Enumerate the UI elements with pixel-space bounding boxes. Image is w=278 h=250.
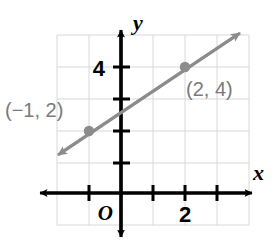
x-tick-label-2: 2 [179,202,191,227]
y-axis-label: y [130,10,143,35]
data-point-2-4 [180,62,190,72]
coordinate-plane-figure: y x 4 2 O (−1, 2) (2, 4) [0,0,278,250]
point-label-2-4: (2, 4) [186,78,233,100]
data-point-minus1-2 [84,126,94,136]
graph-canvas: y x 4 2 O (−1, 2) (2, 4) [0,0,278,250]
origin-label: O [98,201,113,225]
y-tick-label-4: 4 [93,56,106,81]
point-label-minus1-2: (−1, 2) [5,99,63,121]
axis-lines [40,30,252,237]
x-axis-label: x [252,160,264,185]
